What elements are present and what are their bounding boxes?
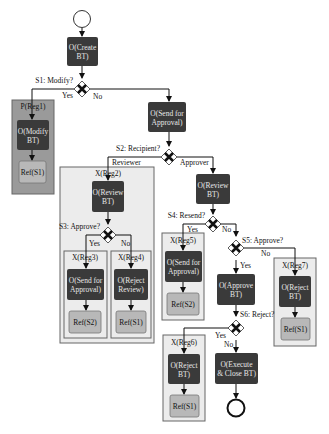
edge-s3-no: No xyxy=(121,239,130,248)
edge-s4-yes: Yes xyxy=(187,225,198,234)
edge-s3-yes: Yes xyxy=(89,239,100,248)
edge-s6-yes: Yes xyxy=(215,331,226,340)
svg-text:BT): BT) xyxy=(207,190,220,199)
svg-text:Approval): Approval) xyxy=(168,267,199,276)
svg-text:BT): BT) xyxy=(102,197,115,206)
edge-s2-reviewer: Reviewer xyxy=(112,158,141,167)
gateway-s2-label: S2: Recipient? xyxy=(116,144,161,153)
task-send-for-approval-reg5: O(Send for Approval) xyxy=(165,251,202,282)
task-send-for-approval: O(Send for Approval) xyxy=(148,102,186,132)
task-reject-bt-reg7: O(Reject BT) xyxy=(279,276,311,307)
svg-text:O(Approve: O(Approve xyxy=(219,281,254,290)
ref-s1-reg6: Ref(S1) xyxy=(170,395,199,417)
svg-text:Ref(S2): Ref(S2) xyxy=(73,318,97,327)
svg-text:O(Reject: O(Reject xyxy=(281,283,309,292)
ref-s2-reg5: Ref(S2) xyxy=(167,293,199,315)
region-reg1-label: P(Reg1) xyxy=(21,102,47,111)
gateway-s2-icon xyxy=(161,149,177,165)
svg-text:Ref(S1): Ref(S1) xyxy=(284,325,308,334)
end-event-icon xyxy=(228,400,245,417)
edge-s5-no: No xyxy=(261,249,270,258)
gateway-s1-label: S1: Modify? xyxy=(35,76,73,85)
task-execute-close-bt: O(Execute & Close BT) xyxy=(215,353,258,384)
gateway-s5-label: S5: Approve? xyxy=(242,236,284,245)
ref-s1-reg4: Ref(S1) xyxy=(116,311,146,333)
edge-s4-no: No xyxy=(222,225,231,234)
svg-text:BT): BT) xyxy=(230,290,243,299)
ref-s1-reg1: Ref(S1) xyxy=(19,161,46,183)
gateway-s3-label: S3: Approve? xyxy=(59,222,101,231)
svg-text:Review): Review) xyxy=(118,285,144,294)
svg-text:Approval): Approval) xyxy=(70,285,101,294)
gateway-s4-label: S4: Resend? xyxy=(168,211,206,220)
task-reject-bt-reg6: O(Reject BT) xyxy=(168,354,200,384)
edge-s2-approver: Approver xyxy=(180,158,209,167)
task-approve-bt: O(Approve BT) xyxy=(217,274,255,305)
task-review-bt-approver: O(Review BT) xyxy=(196,174,230,204)
task-modify-bt: O(Modify BT) xyxy=(17,120,49,150)
edge-s5-yes: Yes xyxy=(240,261,251,270)
edge-s6-no: No xyxy=(224,340,233,349)
svg-text:O(Review: O(Review xyxy=(93,188,124,197)
svg-text:Ref(S1): Ref(S1) xyxy=(173,402,197,411)
workflow-diagram: P(Reg1) X(Reg2) X(Reg3) X(Reg4) X(Reg5) … xyxy=(0,0,329,434)
task-send-for-approval-reg3: O(Send for Approval) xyxy=(67,269,104,300)
svg-text:BT): BT) xyxy=(178,370,191,379)
gateway-s1-icon xyxy=(74,81,90,97)
svg-text:O(Send for: O(Send for xyxy=(69,276,103,285)
task-review-bt-reviewer: O(Review BT) xyxy=(92,181,124,212)
svg-text:& Close BT): & Close BT) xyxy=(217,369,256,378)
svg-text:O(Modify: O(Modify xyxy=(18,127,49,136)
svg-text:O(Execute: O(Execute xyxy=(220,360,253,369)
svg-text:O(Send for: O(Send for xyxy=(150,109,184,118)
start-event-icon xyxy=(74,11,91,28)
task-reject-review: O(Reject Review) xyxy=(114,269,148,300)
edge-s1-no: No xyxy=(93,92,102,101)
svg-text:BT): BT) xyxy=(27,136,40,145)
svg-text:Ref(S2): Ref(S2) xyxy=(171,300,195,309)
svg-text:BT): BT) xyxy=(289,292,302,301)
svg-text:BT): BT) xyxy=(76,52,89,61)
svg-text:Approval): Approval) xyxy=(152,118,183,127)
ref-s2-reg3: Ref(S2) xyxy=(69,311,101,333)
svg-text:Ref(S1): Ref(S1) xyxy=(21,168,45,177)
svg-text:O(Reject: O(Reject xyxy=(117,276,145,285)
edge-s1-yes: Yes xyxy=(62,91,73,100)
region-reg3-label: X(Reg3) xyxy=(72,253,99,262)
gateway-s6-label: S6: Reject? xyxy=(240,310,275,319)
task-create-bt: O(Create BT) xyxy=(67,37,98,66)
ref-s1-reg7: Ref(S1) xyxy=(281,318,310,340)
svg-text:O(Review: O(Review xyxy=(198,181,229,190)
svg-text:Ref(S1): Ref(S1) xyxy=(119,318,143,327)
svg-text:O(Create: O(Create xyxy=(69,43,97,52)
svg-text:O(Reject: O(Reject xyxy=(170,361,198,370)
svg-text:O(Send for: O(Send for xyxy=(167,258,201,267)
gateway-s6-icon xyxy=(228,320,244,336)
gateway-s4-icon xyxy=(205,216,221,232)
